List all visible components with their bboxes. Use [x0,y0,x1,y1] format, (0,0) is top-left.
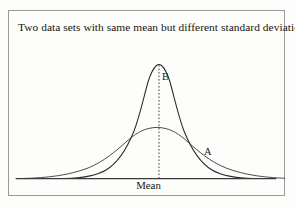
plot-area [8,10,285,196]
mean-axis-label: Mean [0,179,295,191]
figure-container: Two data sets with same mean but differe… [0,0,295,209]
curve-label-b: B [162,71,169,82]
curve-a-path [22,127,285,178]
curve-label-a: A [204,146,212,157]
